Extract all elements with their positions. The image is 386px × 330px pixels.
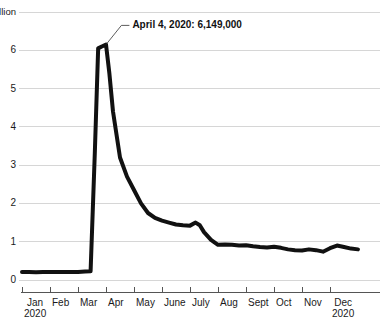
x-axis-tick-year: 2020 (332, 308, 354, 319)
annotation-leader (106, 25, 129, 44)
y-axis-tick-label: 6 (10, 45, 16, 55)
x-axis-tick-label: Dec2020 (332, 297, 354, 319)
x-axis-tick-label: Mar (80, 297, 97, 308)
x-axis-tick-month: Sept (248, 297, 269, 308)
y-axis-tick-label: 4 (10, 122, 16, 132)
data-line (22, 45, 358, 273)
x-axis-tick-year: 2020 (24, 308, 46, 319)
peak-annotation-label: April 4, 2020: 6,149,000 (132, 19, 242, 30)
x-axis-tick-month: Aug (220, 297, 238, 308)
x-axis-tick-month: Oct (276, 297, 292, 308)
x-axis-tick-label: Sept (248, 297, 269, 308)
x-axis-tick-label: June (164, 297, 186, 308)
x-axis-tick-month: Nov (304, 297, 322, 308)
x-axis-tick-month: June (164, 297, 186, 308)
x-axis-tick-label: July (192, 297, 210, 308)
x-axis-tick-label: Apr (108, 297, 124, 308)
y-axis-tick-label: 2 (10, 198, 16, 208)
x-axis-tick-label: Feb (52, 297, 69, 308)
data-series-group (22, 45, 358, 273)
gridlines (19, 12, 380, 280)
x-axis-tick-month: Feb (52, 297, 69, 308)
x-axis-tick-month: May (136, 297, 155, 308)
x-axis-tick-month: Jan (27, 297, 43, 308)
chart-plot-area (0, 0, 386, 330)
annotation-leader-line (106, 25, 129, 44)
x-axis-tick-label: Jan2020 (24, 297, 46, 319)
y-axis-tick-label: 0 (10, 275, 16, 285)
x-axis-tick-label: Nov (304, 297, 322, 308)
x-axis-tick-month: Apr (108, 297, 124, 308)
y-axis-tick-label: 7 million (0, 7, 16, 17)
x-axis-tick-label: Aug (220, 297, 238, 308)
x-axis-tick-month: Mar (80, 297, 97, 308)
y-axis-tick-label: 5 (10, 84, 16, 94)
x-axis-tick-label: Oct (276, 297, 292, 308)
x-axis-tick-month: Dec (334, 297, 352, 308)
y-axis-tick-label: 3 (10, 160, 16, 170)
x-axis-tick-label: May (136, 297, 155, 308)
y-axis-tick-label: 1 (10, 237, 16, 247)
x-axis-tick-month: July (192, 297, 210, 308)
chart-container: 01234567 million Jan2020FebMarAprMayJune… (0, 0, 386, 330)
x-axis (21, 287, 380, 292)
